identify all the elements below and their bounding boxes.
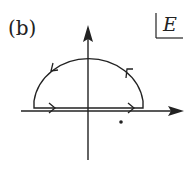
pole-point: [119, 120, 123, 124]
plane-label: E: [163, 13, 177, 35]
contour-diagram: (b) E: [0, 0, 193, 170]
panel-label: (b): [8, 16, 36, 40]
imaginary-axis: [83, 25, 93, 160]
